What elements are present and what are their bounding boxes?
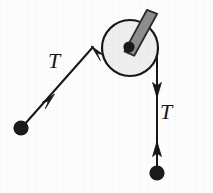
figure-canvas <box>0 0 213 193</box>
physics-figure-pulley: T T <box>0 0 213 193</box>
right-tension-label: T <box>160 101 172 123</box>
left-tension-label: T <box>48 50 60 72</box>
left-mass <box>13 120 28 135</box>
right-mass <box>149 165 164 180</box>
pulley-hub <box>123 41 134 52</box>
left-rope <box>24 46 103 125</box>
pulley-wheel <box>102 10 158 76</box>
